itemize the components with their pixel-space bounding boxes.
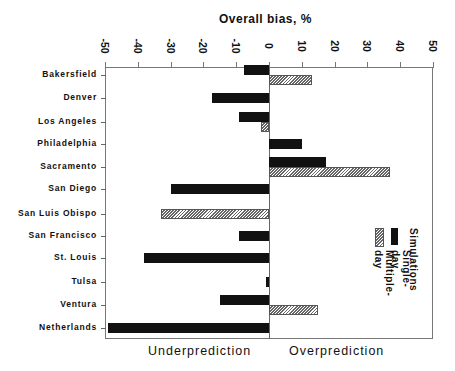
category-label: Denver [63, 92, 97, 102]
x-tick-label: 0 [263, 34, 275, 58]
category-label: Ventura [60, 299, 97, 309]
y-tick [101, 144, 106, 145]
y-tick [101, 282, 106, 283]
legend-label-multi: Multiple-day [373, 250, 395, 303]
x-tick-label: 40 [394, 34, 406, 58]
x-tick-label: 20 [329, 34, 341, 58]
y-tick [101, 214, 106, 215]
y-tick [101, 75, 106, 76]
category-label: San Luis Obispo [18, 208, 97, 218]
category-label: Netherlands [39, 322, 97, 332]
bar-multiple-day [161, 209, 269, 219]
x-tick-label: -10 [230, 34, 242, 58]
zero-line [269, 67, 270, 339]
category-label: Los Angeles [38, 116, 97, 126]
x-tick-label: -50 [99, 34, 111, 58]
y-tick [101, 305, 106, 306]
chart-title: Overall bias, % [219, 12, 312, 26]
category-label: St. Louis [54, 252, 97, 262]
bar-single-day [171, 184, 269, 194]
y-tick [101, 189, 106, 190]
bar-multiple-day [269, 167, 390, 177]
x-tick-label: -20 [197, 34, 209, 58]
x-tick-label: -30 [165, 34, 177, 58]
bar-single-day [239, 112, 269, 122]
bar-single-day [266, 277, 269, 287]
bar-multiple-day [269, 75, 312, 85]
bar-single-day [239, 231, 269, 241]
bar-single-day [244, 65, 269, 75]
underprediction-label: Underprediction [148, 344, 251, 358]
category-label: San Diego [48, 183, 97, 193]
category-label: San Francisco [28, 230, 97, 240]
y-tick [101, 236, 106, 237]
y-tick [101, 167, 106, 168]
category-label: Tulsa [71, 276, 97, 286]
x-tick-label: 30 [361, 34, 373, 58]
x-tick-label: 10 [296, 34, 308, 58]
bar-single-day [212, 93, 269, 103]
overprediction-label: Overprediction [289, 344, 384, 358]
x-tick-label: -40 [132, 34, 144, 58]
category-label: Sacramento [40, 161, 97, 171]
category-label: Bakersfield [42, 69, 97, 79]
bar-single-day [220, 295, 269, 305]
y-tick [101, 98, 106, 99]
bar-multiple-day [261, 122, 269, 132]
x-tick [433, 62, 434, 68]
y-tick [101, 122, 106, 123]
y-tick [101, 328, 106, 329]
bar-multiple-day [269, 305, 318, 315]
legend: Simulations Single-day Multiple-day [360, 228, 420, 303]
bar-single-day [144, 253, 269, 263]
y-tick [101, 258, 106, 259]
x-tick-label: 50 [427, 34, 439, 58]
bar-single-day [269, 157, 326, 167]
category-label: Philadelphia [37, 138, 97, 148]
legend-swatch-multi [375, 228, 384, 247]
bar-single-day [108, 323, 269, 333]
legend-swatch-single [391, 228, 398, 245]
bar-single-day [269, 139, 302, 149]
